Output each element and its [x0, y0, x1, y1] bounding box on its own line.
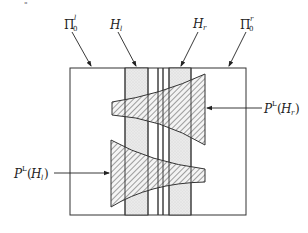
label-h-left: H l [109, 18, 122, 33]
arrow-h-right [181, 32, 198, 66]
svg-text:r: r [250, 15, 254, 23]
arrow-pi-left [72, 32, 91, 66]
arrow-pi-right [229, 32, 246, 66]
projection-diagram: Π l 0 H l H r Π r 0 P L ( H r ) P L ( H … [0, 0, 308, 233]
svg-text:l: l [41, 174, 43, 182]
svg-text:): ) [44, 167, 49, 181]
label-p-h-left: P L ( H l ) [13, 165, 49, 182]
arrow-h-left [118, 32, 136, 66]
svg-text:0: 0 [73, 25, 77, 33]
svg-text:0: 0 [249, 25, 253, 33]
label-pi-right: Π r 0 [240, 15, 254, 33]
svg-text:r: r [203, 24, 207, 32]
label-pi-left: Π l 0 [64, 14, 77, 33]
svg-text:l: l [120, 25, 122, 33]
svg-text:l: l [74, 14, 76, 22]
svg-text:): ) [295, 102, 300, 116]
label-h-right: H r [192, 17, 207, 32]
label-p-h-right: P L ( H r ) [263, 100, 300, 117]
